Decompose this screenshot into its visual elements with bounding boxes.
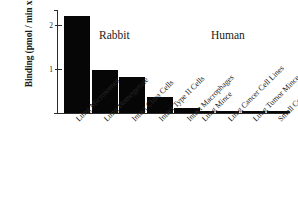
y-axis-cap-top (54, 10, 58, 11)
y-axis-label: Binding (pmol / min x mg) (24, 0, 34, 94)
group-title-rabbit: Rabbit (99, 29, 130, 41)
y-tick-1 (55, 69, 62, 70)
y-tick-2 (55, 25, 62, 26)
y-tick-label-2: 2 (41, 21, 53, 30)
bar-chart-figure: Binding (pmol / min x mg) 12 Rabbit Huma… (0, 0, 298, 203)
y-tick-label-1: 1 (41, 65, 53, 74)
group-title-human: Human (211, 29, 245, 41)
bar (64, 16, 90, 113)
